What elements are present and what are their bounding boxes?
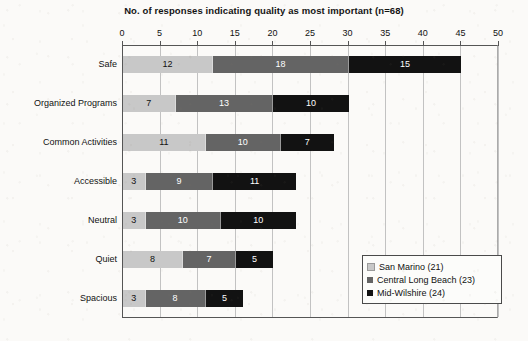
bar-segment: 9 xyxy=(146,173,214,190)
legend-label: San Marino (21) xyxy=(379,262,444,272)
bar-segment: 3 xyxy=(123,290,146,307)
category-label-safe: Safe xyxy=(98,60,117,69)
legend-item: Central Long Beach (23) xyxy=(367,273,496,286)
bar-segment: 11 xyxy=(123,134,206,151)
x-axis: 05101520253035404550 xyxy=(122,28,498,46)
bar-segment: 10 xyxy=(273,95,348,112)
gridline-25 xyxy=(310,46,311,317)
category-label-spacious: Spacious xyxy=(80,294,117,303)
bar-segment: 3 xyxy=(123,173,146,190)
category-label-common-activities: Common Activities xyxy=(43,138,117,147)
gridline-30 xyxy=(348,46,349,317)
legend-item: San Marino (21) xyxy=(367,260,496,273)
bar-segment: 5 xyxy=(236,251,274,268)
x-tick-mark-40 xyxy=(423,41,424,46)
bar-segment: 11 xyxy=(213,173,296,190)
x-tick-mark-45 xyxy=(460,41,461,46)
x-tick-label-35: 35 xyxy=(380,28,390,38)
bar-row: 121815 xyxy=(123,56,461,73)
legend: San Marino (21)Central Long Beach (23)Mi… xyxy=(362,255,502,304)
x-tick-mark-10 xyxy=(197,41,198,46)
bar-segment: 5 xyxy=(206,290,244,307)
bar-segment: 12 xyxy=(123,56,213,73)
x-tick-mark-25 xyxy=(310,41,311,46)
legend-label: Mid-Wilshire (24) xyxy=(377,288,445,298)
bar-row: 385 xyxy=(123,290,243,307)
x-tick-label-0: 0 xyxy=(119,28,124,38)
bar-row: 71310 xyxy=(123,95,349,112)
bar-row: 3911 xyxy=(123,173,296,190)
bar-segment: 7 xyxy=(281,134,334,151)
legend-swatch-icon xyxy=(367,263,375,271)
x-tick-label-15: 15 xyxy=(230,28,240,38)
bar-segment: 7 xyxy=(123,95,176,112)
x-tick-label-5: 5 xyxy=(157,28,162,38)
category-label-accessible: Accessible xyxy=(74,177,117,186)
bar-segment: 3 xyxy=(123,212,146,229)
x-tick-label-50: 50 xyxy=(493,28,503,38)
x-tick-label-10: 10 xyxy=(192,28,202,38)
bar-row: 31010 xyxy=(123,212,296,229)
legend-swatch-icon xyxy=(367,277,373,283)
category-label-organized-programs: Organized Programs xyxy=(34,99,117,108)
x-tick-mark-20 xyxy=(272,41,273,46)
bar-segment: 18 xyxy=(213,56,348,73)
x-tick-label-30: 30 xyxy=(343,28,353,38)
x-tick-mark-5 xyxy=(160,41,161,46)
x-tick-mark-35 xyxy=(385,41,386,46)
legend-swatch-icon xyxy=(367,290,373,296)
bar-segment: 15 xyxy=(349,56,462,73)
bar-segment: 8 xyxy=(146,290,206,307)
bar-segment: 13 xyxy=(176,95,274,112)
legend-label: Central Long Beach (23) xyxy=(377,275,475,285)
bar-segment: 7 xyxy=(183,251,236,268)
bar-row: 11107 xyxy=(123,134,334,151)
x-tick-label-25: 25 xyxy=(305,28,315,38)
x-tick-mark-0 xyxy=(122,41,123,46)
bar-segment: 10 xyxy=(221,212,296,229)
bar-segment: 8 xyxy=(123,251,183,268)
x-tick-label-45: 45 xyxy=(455,28,465,38)
chart-title: No. of responses indicating quality as m… xyxy=(0,5,528,16)
category-label-neutral: Neutral xyxy=(88,216,117,225)
x-tick-mark-15 xyxy=(235,41,236,46)
category-label-quiet: Quiet xyxy=(95,255,117,264)
x-tick-label-20: 20 xyxy=(267,28,277,38)
legend-item: Mid-Wilshire (24) xyxy=(367,286,496,299)
x-tick-mark-50 xyxy=(498,41,499,46)
bar-row: 875 xyxy=(123,251,273,268)
bar-segment: 10 xyxy=(206,134,281,151)
x-tick-label-40: 40 xyxy=(418,28,428,38)
bar-segment: 10 xyxy=(146,212,221,229)
x-tick-mark-30 xyxy=(348,41,349,46)
